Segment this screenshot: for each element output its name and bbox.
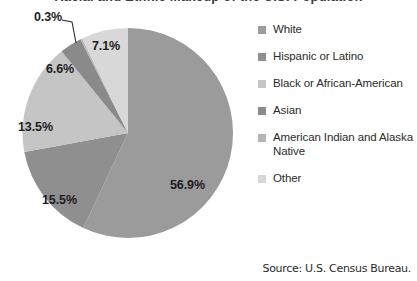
pie-chart-figure: Racial and Ethnic Makeup of the U.S. Pop… [0, 0, 417, 281]
slice-label-white: 56.9% [170, 178, 205, 192]
legend-label: Black or African-American [273, 76, 403, 90]
legend-item-other[interactable]: Other [258, 171, 416, 185]
legend-item-black-or-african-american[interactable]: Black or African-American [258, 76, 416, 90]
legend-item-hispanic-or-latino[interactable]: Hispanic or Latino [258, 49, 416, 63]
chart-legend: White Hispanic or Latino Black or Africa… [258, 22, 416, 198]
legend-item-white[interactable]: White [258, 22, 416, 36]
slice-label-black-or-african-american: 13.5% [18, 120, 53, 134]
source-note: Source: U.S. Census Bureau. [262, 262, 411, 275]
legend-label: Hispanic or Latino [273, 49, 363, 63]
legend-swatch-icon [258, 134, 266, 142]
legend-label: White [273, 22, 302, 36]
pie-plot-area: 56.9% 15.5% 13.5% 6.6% 0.3% 7.1% [0, 0, 255, 281]
slice-label-hispanic-or-latino: 15.5% [42, 193, 77, 207]
slice-label-american-indian-and-alaska-native: 0.3% [34, 10, 62, 24]
legend-swatch-icon [258, 26, 266, 34]
legend-swatch-icon [258, 80, 266, 88]
leader-line-american-indian [62, 20, 76, 43]
legend-swatch-icon [258, 175, 266, 183]
pie-svg [0, 0, 255, 281]
legend-item-american-indian-and-alaska-native[interactable]: American Indian and Alaska Native [258, 130, 416, 158]
legend-item-asian[interactable]: Asian [258, 103, 416, 117]
legend-swatch-icon [258, 107, 266, 115]
legend-label: American Indian and Alaska Native [273, 130, 416, 158]
slice-label-asian: 6.6% [46, 62, 74, 76]
legend-label: Asian [273, 103, 301, 117]
slice-label-other: 7.1% [92, 39, 120, 53]
legend-label: Other [273, 171, 301, 185]
legend-swatch-icon [258, 53, 266, 61]
